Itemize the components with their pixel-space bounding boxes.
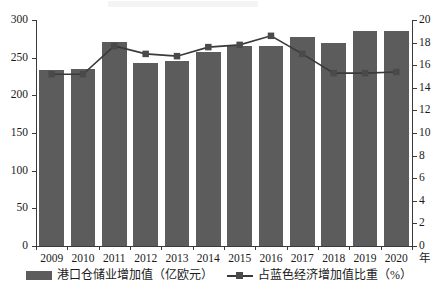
- legend-line-marker-icon: [227, 271, 253, 280]
- x-axis-tick: [193, 246, 194, 250]
- x-axis-label-2018: 2018: [318, 252, 349, 264]
- legend-label-line: 占蓝色经济增加值比重（%）: [258, 269, 412, 282]
- x-axis-label-2019: 2019: [349, 252, 380, 264]
- right-axis-tick: [413, 246, 417, 247]
- right-axis-tick-label: 8: [419, 150, 425, 162]
- line-marker-2013: [174, 53, 181, 60]
- scan-artifact: [108, 1, 258, 7]
- x-axis-tick: [224, 246, 225, 250]
- line-marker-2012: [142, 51, 149, 58]
- right-axis-tick-label: 4: [419, 195, 425, 207]
- right-axis-tick: [413, 201, 417, 202]
- right-axis-tick: [413, 223, 417, 224]
- line-marker-2017: [299, 51, 306, 58]
- right-axis-tick-label: 0: [419, 240, 425, 252]
- right-axis-tick: [413, 110, 417, 111]
- legend-item-line: 占蓝色经济增加值比重（%）: [227, 269, 412, 282]
- right-axis-tick: [413, 178, 417, 179]
- x-axis-tick: [99, 246, 100, 250]
- plot-area: [36, 20, 412, 246]
- right-axis-tick-label: 6: [419, 172, 425, 184]
- left-axis-tick-label: 200: [0, 89, 28, 101]
- x-axis-tick: [161, 246, 162, 250]
- line-marker-2019: [362, 70, 369, 77]
- x-axis-label-2017: 2017: [287, 252, 318, 264]
- right-axis-tick: [413, 65, 417, 66]
- legend-label-bar: 港口仓储业增加值（亿欧元）: [57, 269, 213, 282]
- line-marker-2011: [111, 43, 118, 50]
- x-axis-tick: [318, 246, 319, 250]
- right-axis-tick: [413, 88, 417, 89]
- x-axis-label-2013: 2013: [161, 252, 192, 264]
- right-axis-tick: [413, 133, 417, 134]
- x-axis-label-2011: 2011: [99, 252, 130, 264]
- x-axis-tick: [67, 246, 68, 250]
- x-axis-tick: [130, 246, 131, 250]
- right-axis-tick-label: 10: [419, 127, 431, 139]
- right-axis-tick-label: 14: [419, 82, 431, 94]
- x-axis-unit-label: 年: [419, 252, 430, 264]
- x-axis-label-2020: 2020: [381, 252, 412, 264]
- left-axis-tick-label: 50: [0, 202, 28, 214]
- right-axis-tick: [413, 43, 417, 44]
- left-axis-tick-label: 100: [0, 165, 28, 177]
- line-path: [52, 36, 397, 74]
- line-marker-2010: [80, 71, 87, 78]
- chart-container: 050100150200250300 02468101214161820 200…: [0, 0, 438, 291]
- left-axis-tick-label: 300: [0, 14, 28, 26]
- x-axis-label-2009: 2009: [36, 252, 67, 264]
- right-axis-tick-label: 20: [419, 14, 431, 26]
- x-axis-tick: [36, 246, 37, 250]
- left-axis-tick-label: 250: [0, 52, 28, 64]
- chart-legend: 港口仓储业增加值（亿欧元） 占蓝色经济增加值比重（%）: [0, 269, 438, 282]
- right-axis-tick: [413, 156, 417, 157]
- legend-item-bar: 港口仓储业增加值（亿欧元）: [26, 269, 213, 282]
- line-marker-2016: [268, 33, 275, 40]
- line-marker-2018: [330, 70, 337, 77]
- x-axis-tick: [287, 246, 288, 250]
- x-axis-tick: [349, 246, 350, 250]
- line-series: [36, 20, 412, 246]
- line-marker-2009: [48, 71, 55, 78]
- legend-bar-swatch-icon: [26, 271, 52, 280]
- line-marker-2014: [205, 44, 212, 51]
- right-axis-tick: [413, 20, 417, 21]
- x-axis-tick: [381, 246, 382, 250]
- x-axis-label-2010: 2010: [67, 252, 98, 264]
- x-axis-label-2015: 2015: [224, 252, 255, 264]
- x-axis-label-2016: 2016: [255, 252, 286, 264]
- line-marker-2015: [236, 42, 243, 49]
- x-axis-tick: [412, 246, 413, 250]
- line-marker-2020: [393, 69, 400, 76]
- x-axis-label-2012: 2012: [130, 252, 161, 264]
- right-axis-tick-label: 12: [419, 104, 431, 116]
- right-axis-tick-label: 2: [419, 217, 425, 229]
- x-axis-label-2014: 2014: [193, 252, 224, 264]
- right-axis-tick-label: 18: [419, 37, 431, 49]
- x-axis-tick: [255, 246, 256, 250]
- right-axis-tick-label: 16: [419, 59, 431, 71]
- left-axis-tick-label: 150: [0, 127, 28, 139]
- left-axis-tick-label: 0: [0, 240, 28, 252]
